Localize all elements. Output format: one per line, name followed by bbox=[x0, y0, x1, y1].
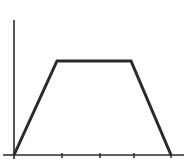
axes bbox=[3, 20, 184, 159]
profile-line bbox=[14, 61, 171, 155]
trapezoid-profile-chart bbox=[0, 0, 184, 165]
